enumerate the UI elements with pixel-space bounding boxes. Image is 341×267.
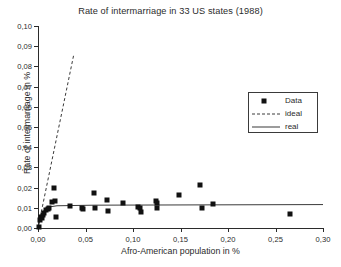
x-tick-mark: [323, 228, 324, 232]
dashed-line-icon: [249, 107, 283, 120]
y-tick-label: 0,02: [17, 183, 32, 192]
data-point: [138, 210, 143, 215]
data-point: [106, 208, 111, 213]
chart-figure: Rate of intermarriage in 33 US states (1…: [0, 0, 341, 267]
y-tick-label: 0,04: [17, 143, 32, 152]
legend-item-real: real: [249, 120, 319, 133]
legend-label-ideal: ideal: [283, 109, 302, 118]
legend-item-ideal: ideal: [249, 107, 319, 120]
x-tick-label: 0,10: [126, 235, 141, 244]
y-tick-label: 0,10: [17, 22, 32, 31]
y-tick-label: 0,03: [17, 163, 32, 172]
data-point: [54, 214, 59, 219]
data-point: [80, 207, 85, 212]
chart-title: Rate of intermarriage in 33 US states (1…: [0, 6, 341, 16]
data-point: [176, 192, 181, 197]
data-point: [53, 198, 58, 203]
x-tick-mark: [86, 228, 87, 232]
x-axis-label: Afro-American population in %: [38, 246, 323, 256]
legend-label-real: real: [283, 122, 298, 131]
y-tick-label: 0,07: [17, 82, 32, 91]
data-point: [52, 185, 57, 190]
y-tick-label: 0,00: [17, 224, 32, 233]
data-point: [105, 197, 110, 202]
y-tick-label: 0,06: [17, 102, 32, 111]
plot-area: 0,000,010,020,030,040,050,060,070,080,09…: [38, 26, 323, 228]
data-point: [154, 200, 159, 205]
x-tick-mark: [181, 228, 182, 232]
x-tick-mark: [276, 228, 277, 232]
solid-line-icon: [249, 120, 283, 133]
data-point: [92, 190, 97, 195]
data-point: [200, 205, 205, 210]
y-tick-label: 0,09: [17, 42, 32, 51]
legend-label-data: Data: [283, 96, 302, 105]
x-tick-label: 0,00: [31, 235, 46, 244]
x-tick-label: 0,20: [221, 235, 236, 244]
data-point: [287, 212, 292, 217]
x-tick-label: 0,15: [173, 235, 188, 244]
filled-square-icon: [249, 94, 283, 107]
x-tick-label: 0,05: [78, 235, 93, 244]
x-tick-mark: [228, 228, 229, 232]
data-point: [93, 205, 98, 210]
legend-item-data: Data: [249, 94, 319, 107]
data-point: [36, 224, 41, 229]
x-tick-mark: [133, 228, 134, 232]
x-tick-label: 0,25: [268, 235, 283, 244]
chart-legend: Data ideal real: [248, 92, 318, 133]
data-point: [47, 206, 52, 211]
y-tick-label: 0,08: [17, 62, 32, 71]
data-point: [210, 202, 215, 207]
data-point: [154, 206, 159, 211]
x-tick-label: 0,30: [316, 235, 331, 244]
y-tick-label: 0,05: [17, 123, 32, 132]
data-point: [68, 204, 73, 209]
y-tick-label: 0,01: [17, 203, 32, 212]
data-point: [198, 183, 203, 188]
data-point: [120, 200, 125, 205]
